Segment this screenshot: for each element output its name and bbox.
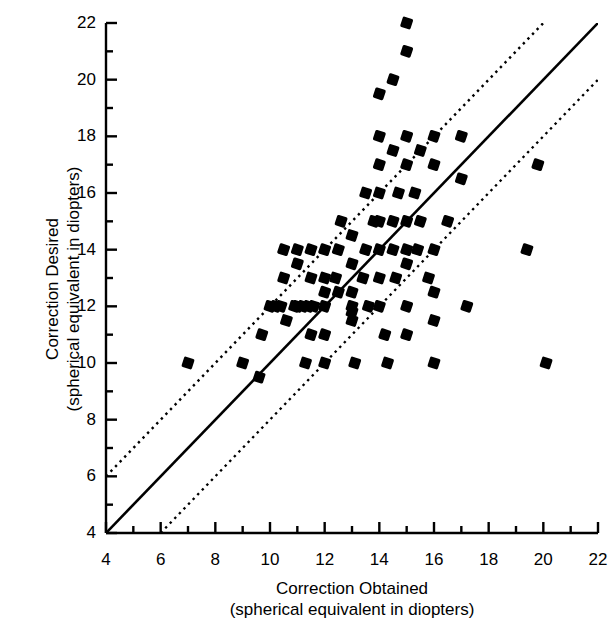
data-point xyxy=(291,257,305,271)
data-point xyxy=(277,243,291,257)
data-point xyxy=(455,172,469,186)
data-point xyxy=(318,328,332,342)
data-point xyxy=(373,87,387,101)
data-point xyxy=(389,271,403,285)
data-point xyxy=(400,16,414,30)
data-point xyxy=(414,144,428,158)
data-point xyxy=(318,243,332,257)
data-point xyxy=(386,215,400,229)
data-point xyxy=(345,229,359,243)
data-point xyxy=(373,271,387,285)
x-axis-title-line2: (spherical equivalent in diopters) xyxy=(106,599,598,620)
data-point xyxy=(386,243,400,257)
data-point xyxy=(304,328,318,342)
data-point xyxy=(373,186,387,200)
data-point xyxy=(392,186,406,200)
data-point xyxy=(427,243,441,257)
data-point xyxy=(329,271,343,285)
data-point xyxy=(400,243,414,257)
data-point xyxy=(427,158,441,172)
scatter-plot-figure: 4681012141618202246810121416182022Correc… xyxy=(0,0,614,634)
x-tick-label: 14 xyxy=(359,551,399,568)
x-axis-title: Correction Obtained(spherical equivalent… xyxy=(106,578,598,620)
data-point xyxy=(427,314,441,328)
data-point xyxy=(381,356,395,370)
x-tick-label: 4 xyxy=(86,551,126,568)
data-point xyxy=(411,243,425,257)
x-tick-label: 6 xyxy=(141,551,181,568)
x-tick-label: 10 xyxy=(250,551,290,568)
data-point xyxy=(236,356,250,370)
data-point xyxy=(531,158,545,172)
data-point xyxy=(378,328,392,342)
y-axis-title: Correction Desired(spherical equivalent … xyxy=(42,43,84,535)
data-point xyxy=(400,158,414,172)
data-point xyxy=(345,257,359,271)
data-point xyxy=(414,215,428,229)
x-tick-label: 22 xyxy=(578,551,614,568)
data-point xyxy=(408,186,422,200)
data-point xyxy=(400,45,414,59)
data-point xyxy=(427,285,441,299)
data-point xyxy=(455,130,469,144)
data-point xyxy=(255,328,269,342)
reference-line-identity xyxy=(106,23,598,533)
data-point xyxy=(252,370,266,384)
data-point xyxy=(520,243,534,257)
y-axis-title-line1: Correction Desired xyxy=(42,43,63,535)
data-point xyxy=(400,130,414,144)
data-point xyxy=(318,356,332,370)
data-point xyxy=(304,271,318,285)
data-point xyxy=(280,314,294,328)
data-point xyxy=(362,300,376,314)
data-point xyxy=(291,243,305,257)
data-point xyxy=(400,300,414,314)
data-point xyxy=(373,300,387,314)
data-point xyxy=(277,271,291,285)
data-point xyxy=(539,356,553,370)
x-tick-label: 16 xyxy=(414,551,454,568)
x-tick-label: 20 xyxy=(523,551,563,568)
data-point xyxy=(345,285,359,299)
data-point xyxy=(422,271,436,285)
data-point xyxy=(427,356,441,370)
data-point xyxy=(441,215,455,229)
data-point xyxy=(318,271,332,285)
y-axis-title-line2: (spherical equivalent in diopters) xyxy=(63,43,84,535)
data-point xyxy=(348,356,362,370)
x-axis-title-line1: Correction Obtained xyxy=(106,578,598,599)
data-point xyxy=(332,243,346,257)
data-point xyxy=(460,300,474,314)
data-point xyxy=(373,158,387,172)
y-tick-label: 22 xyxy=(54,14,96,31)
data-point xyxy=(304,243,318,257)
data-point xyxy=(359,186,373,200)
x-tick-label: 8 xyxy=(195,551,235,568)
data-point xyxy=(386,144,400,158)
x-tick-label: 12 xyxy=(305,551,345,568)
data-point xyxy=(299,356,313,370)
data-point xyxy=(400,257,414,271)
reference-lines xyxy=(106,23,598,533)
data-point xyxy=(359,243,373,257)
data-point xyxy=(334,215,348,229)
x-tick-label: 18 xyxy=(469,551,509,568)
data-point xyxy=(427,130,441,144)
data-point xyxy=(373,130,387,144)
data-point xyxy=(400,328,414,342)
data-point xyxy=(318,285,332,299)
data-point xyxy=(386,73,400,87)
data-point xyxy=(181,356,195,370)
